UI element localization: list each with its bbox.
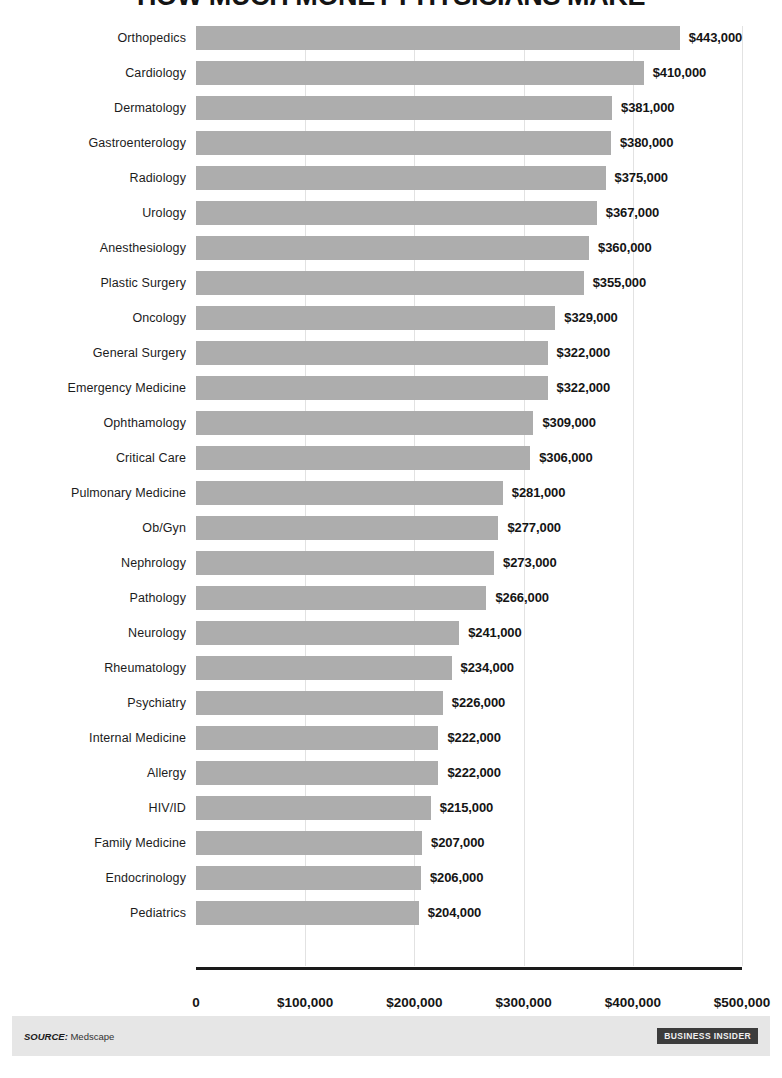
bar [196,96,612,120]
bar-container: $322,000 [196,335,782,370]
bar-row: Ob/Gyn$277,000 [0,510,782,545]
x-tick-label: $300,000 [495,995,551,1010]
page-title: HOW MUCH MONEY PHYSICIANS MAKE [137,0,645,12]
category-label: Dermatology [0,90,186,125]
bar [196,796,431,820]
category-label: Pediatrics [0,895,186,930]
category-label: Emergency Medicine [0,370,186,405]
bar-row: Radiology$375,000 [0,160,782,195]
bar [196,376,548,400]
bar-row: Allergy$222,000 [0,755,782,790]
bar-value-label: $360,000 [598,240,651,255]
bar-value-label: $226,000 [452,695,505,710]
category-label: HIV/ID [0,790,186,825]
bar-row: Nephrology$273,000 [0,545,782,580]
bar-row: Psychiatry$226,000 [0,685,782,720]
bar-row: Family Medicine$207,000 [0,825,782,860]
bar-container: $306,000 [196,440,782,475]
bar-value-label: $222,000 [447,765,500,780]
bar-row: Plastic Surgery$355,000 [0,265,782,300]
category-label: Pulmonary Medicine [0,475,186,510]
category-label: Critical Care [0,440,186,475]
bar-container: $234,000 [196,650,782,685]
category-label: Orthopedics [0,20,186,55]
bar-container: $381,000 [196,90,782,125]
bar-container: $277,000 [196,510,782,545]
bar-value-label: $273,000 [503,555,556,570]
bar-container: $375,000 [196,160,782,195]
bar [196,726,438,750]
bar-value-label: $222,000 [447,730,500,745]
bar-value-label: $443,000 [689,30,742,45]
bar [196,271,584,295]
bar-container: $215,000 [196,790,782,825]
bar [196,61,644,85]
category-label: Nephrology [0,545,186,580]
infographic-page: HOW MUCH MONEY PHYSICIANS MAKE Orthopedi… [0,0,782,1078]
bar-row: Gastroenterology$380,000 [0,125,782,160]
category-label: Pathology [0,580,186,615]
bar [196,866,421,890]
bar-container: $329,000 [196,300,782,335]
bar-row: Pathology$266,000 [0,580,782,615]
x-tick-label: $500,000 [714,995,770,1010]
bar-row: Pediatrics$204,000 [0,895,782,930]
bar-value-label: $322,000 [557,380,610,395]
category-label: Plastic Surgery [0,265,186,300]
source-credit: SOURCE: Medscape [24,1031,114,1042]
bar [196,306,555,330]
bar-container: $222,000 [196,755,782,790]
bar-value-label: $329,000 [564,310,617,325]
bar-value-label: $207,000 [431,835,484,850]
bar [196,341,548,365]
category-label: Neurology [0,615,186,650]
bar-value-label: $306,000 [539,450,592,465]
bar-container: $443,000 [196,20,782,55]
category-label: Anesthesiology [0,230,186,265]
bar-value-label: $234,000 [461,660,514,675]
bar [196,446,530,470]
x-tick-label: $200,000 [386,995,442,1010]
bar [196,551,494,575]
bar [196,26,680,50]
bar-row: General Surgery$322,000 [0,335,782,370]
bar-container: $273,000 [196,545,782,580]
bar [196,621,459,645]
x-tick-label: $400,000 [605,995,661,1010]
bar-row: Anesthesiology$360,000 [0,230,782,265]
source-value: Medscape [70,1031,114,1042]
category-label: Gastroenterology [0,125,186,160]
bar [196,761,438,785]
bar-container: $241,000 [196,615,782,650]
bar-row: Critical Care$306,000 [0,440,782,475]
x-tick-label: 0 [192,995,200,1010]
bar-value-label: $215,000 [440,800,493,815]
chart-plot-area: Orthopedics$443,000Cardiology$410,000Der… [0,20,782,970]
bar-row: Dermatology$381,000 [0,90,782,125]
chart-title-clip: HOW MUCH MONEY PHYSICIANS MAKE [0,0,782,16]
bar [196,236,589,260]
bar-value-label: $375,000 [615,170,668,185]
category-label: Ob/Gyn [0,510,186,545]
bar-container: $322,000 [196,370,782,405]
x-tick-label: $100,000 [277,995,333,1010]
bar-row: Rheumatology$234,000 [0,650,782,685]
bar-value-label: $367,000 [606,205,659,220]
x-axis-line [196,967,742,970]
category-label: Urology [0,195,186,230]
category-label: Radiology [0,160,186,195]
category-label: Family Medicine [0,825,186,860]
category-label: Psychiatry [0,685,186,720]
bar-value-label: $241,000 [468,625,521,640]
bar-value-label: $355,000 [593,275,646,290]
business-insider-logo: BUSINESS INSIDER [657,1028,758,1044]
category-label: Rheumatology [0,650,186,685]
bar-row: Oncology$329,000 [0,300,782,335]
bar-container: $309,000 [196,405,782,440]
bar-row: Endocrinology$206,000 [0,860,782,895]
bar [196,481,503,505]
bar-value-label: $380,000 [620,135,673,150]
bar-value-label: $381,000 [621,100,674,115]
bar-container: $410,000 [196,55,782,90]
bar-row: Neurology$241,000 [0,615,782,650]
